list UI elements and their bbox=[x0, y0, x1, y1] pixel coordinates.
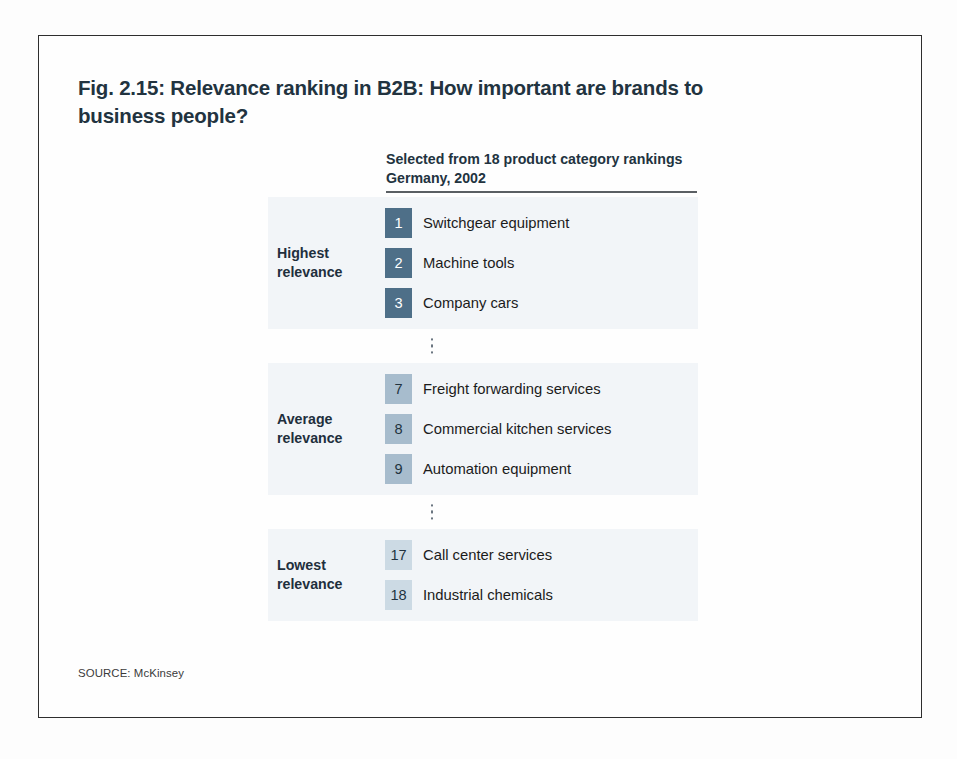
group-rows-lowest: 17 Call center services 18 Industrial ch… bbox=[385, 529, 698, 621]
table-row[interactable]: 17 Call center services bbox=[385, 535, 698, 575]
rank-label: Machine tools bbox=[412, 255, 514, 271]
table-row[interactable]: 9 Automation equipment bbox=[385, 449, 698, 489]
group-rows-highest: 1 Switchgear equipment 2 Machine tools 3… bbox=[385, 197, 698, 329]
table-row[interactable]: 8 Commercial kitchen services bbox=[385, 409, 698, 449]
rank-badge: 17 bbox=[385, 540, 412, 570]
rank-label: Freight forwarding services bbox=[412, 381, 601, 397]
rank-label: Company cars bbox=[412, 295, 518, 311]
group-label-line1: Average bbox=[277, 410, 385, 429]
rank-gap-separator-1 bbox=[268, 329, 698, 363]
relevance-group-average: Average relevance 7 Freight forwarding s… bbox=[268, 363, 698, 495]
rank-label: Commercial kitchen services bbox=[412, 421, 611, 437]
header-rule bbox=[386, 191, 697, 193]
rank-badge: 9 bbox=[385, 454, 412, 484]
rank-badge: 1 bbox=[385, 208, 412, 238]
source-note: SOURCE: McKinsey bbox=[78, 667, 184, 679]
group-label-lowest: Lowest relevance bbox=[268, 556, 385, 594]
rank-badge: 2 bbox=[385, 248, 412, 278]
rank-badge: 8 bbox=[385, 414, 412, 444]
table-row[interactable]: 1 Switchgear equipment bbox=[385, 203, 698, 243]
relevance-group-lowest: Lowest relevance 17 Call center services… bbox=[268, 529, 698, 621]
group-label-line2: relevance bbox=[277, 429, 385, 448]
group-label-highest: Highest relevance bbox=[268, 244, 385, 282]
column-header: Selected from 18 product category rankin… bbox=[386, 150, 698, 187]
rank-label: Call center services bbox=[412, 547, 552, 563]
group-label-line1: Lowest bbox=[277, 556, 385, 575]
rank-label: Switchgear equipment bbox=[412, 215, 569, 231]
group-label-average: Average relevance bbox=[268, 410, 385, 448]
rank-gap-separator-2 bbox=[268, 495, 698, 529]
vertical-ellipsis-icon bbox=[431, 504, 433, 519]
page-title: Fig. 2.15: Relevance ranking in B2B: How… bbox=[78, 74, 738, 129]
table-row[interactable]: 3 Company cars bbox=[385, 283, 698, 323]
vertical-ellipsis-icon bbox=[431, 338, 433, 353]
rank-badge: 3 bbox=[385, 288, 412, 318]
group-rows-average: 7 Freight forwarding services 8 Commerci… bbox=[385, 363, 698, 495]
group-label-line2: relevance bbox=[277, 575, 385, 594]
table-row[interactable]: 18 Industrial chemicals bbox=[385, 575, 698, 615]
table-row[interactable]: 2 Machine tools bbox=[385, 243, 698, 283]
figure-frame: Fig. 2.15: Relevance ranking in B2B: How… bbox=[38, 35, 922, 718]
group-label-line1: Highest bbox=[277, 244, 385, 263]
rank-label: Industrial chemicals bbox=[412, 587, 553, 603]
rank-badge: 18 bbox=[385, 580, 412, 610]
rank-badge: 7 bbox=[385, 374, 412, 404]
table-row[interactable]: 7 Freight forwarding services bbox=[385, 369, 698, 409]
group-label-line2: relevance bbox=[277, 263, 385, 282]
rank-label: Automation equipment bbox=[412, 461, 571, 477]
ranking-table: Highest relevance 1 Switchgear equipment… bbox=[268, 197, 698, 621]
relevance-group-highest: Highest relevance 1 Switchgear equipment… bbox=[268, 197, 698, 329]
